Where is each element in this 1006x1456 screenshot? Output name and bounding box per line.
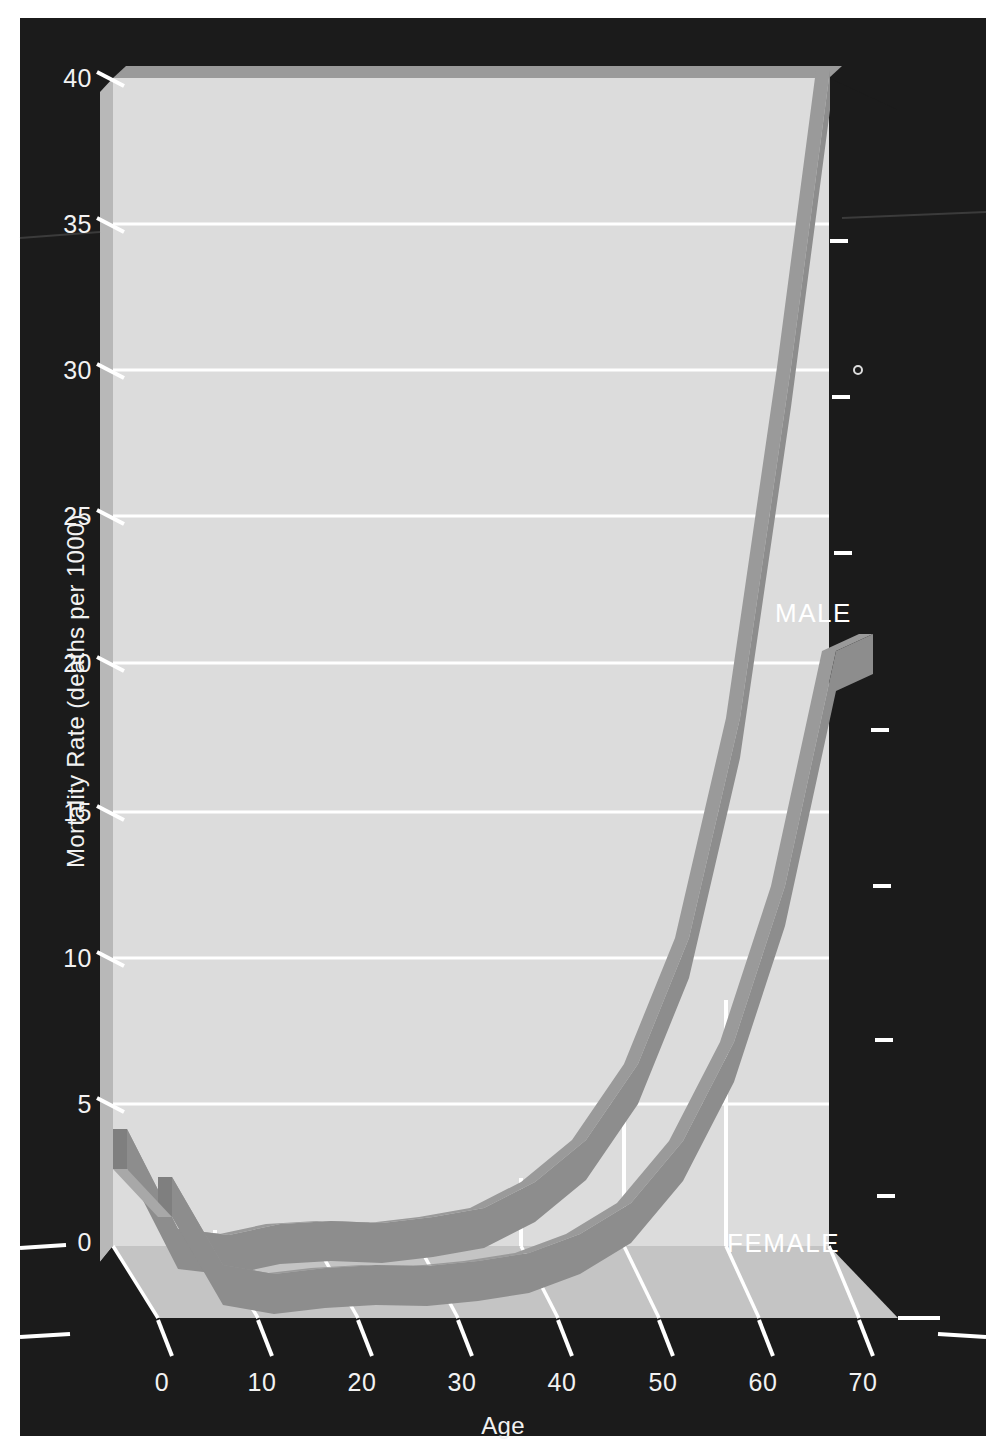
xtick-label-20: 20 xyxy=(332,1368,392,1397)
xtick-label-30: 30 xyxy=(432,1368,492,1397)
ytick-label-10: 10 xyxy=(40,944,92,973)
ytick-label-0: 0 xyxy=(40,1228,92,1257)
ytick-label-30: 30 xyxy=(40,356,92,385)
figure-root: 40 35 30 25 20 15 10 5 0 0 10 20 30 40 5… xyxy=(0,0,1006,1456)
ytick-label-40: 40 xyxy=(40,64,92,93)
series-label-male: MALE xyxy=(775,598,852,629)
ytick-label-5: 5 xyxy=(40,1090,92,1119)
ytick-label-35: 35 xyxy=(40,210,92,239)
xtick-label-70: 70 xyxy=(833,1368,893,1397)
figure-plate: 40 35 30 25 20 15 10 5 0 0 10 20 30 40 5… xyxy=(0,0,1006,1456)
right-wall xyxy=(829,78,898,1318)
y-axis-title: Mortality Rate (deaths per 1000) xyxy=(62,514,90,868)
male-ribbon-start-cap xyxy=(113,1129,127,1169)
mortality-ribbon-chart xyxy=(0,0,1006,1456)
xtick-label-0: 0 xyxy=(132,1368,192,1397)
xtick-label-50: 50 xyxy=(633,1368,693,1397)
xtick-label-40: 40 xyxy=(532,1368,592,1397)
series-label-female: FEMALE xyxy=(727,1228,840,1259)
xtick-label-10: 10 xyxy=(232,1368,292,1397)
wall-top-cap xyxy=(113,66,842,78)
xtick-label-60: 60 xyxy=(733,1368,793,1397)
x-axis-title: Age xyxy=(0,1412,1006,1440)
left-wall xyxy=(100,78,113,1262)
